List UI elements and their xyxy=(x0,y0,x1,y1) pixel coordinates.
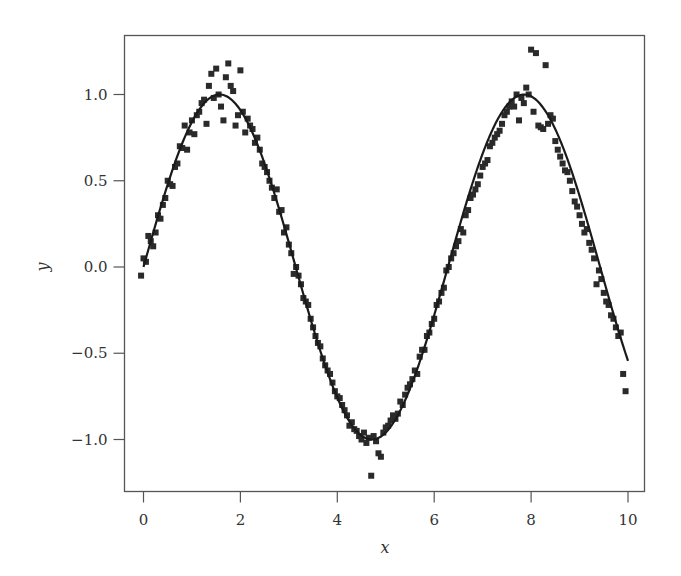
data-point xyxy=(499,121,505,127)
data-point xyxy=(475,181,481,187)
data-point xyxy=(378,454,384,460)
x-axis-label: x xyxy=(380,538,389,557)
data-point xyxy=(594,281,600,287)
data-point xyxy=(555,147,561,153)
data-point xyxy=(218,104,224,110)
data-point xyxy=(557,154,563,160)
data-point xyxy=(363,440,369,446)
data-point xyxy=(208,71,214,77)
y-tick-label: 0.5 xyxy=(84,172,108,190)
data-point xyxy=(472,186,478,192)
data-point xyxy=(206,83,212,89)
data-point xyxy=(533,50,539,56)
data-point xyxy=(523,85,529,91)
data-point xyxy=(552,138,558,144)
data-point xyxy=(577,212,583,218)
data-point xyxy=(511,104,517,110)
data-point xyxy=(560,161,566,167)
data-point xyxy=(242,129,248,135)
y-axis: −1.0−0.50.00.51.0 xyxy=(71,86,124,449)
data-point xyxy=(368,473,374,479)
y-axis-label: y xyxy=(33,262,52,273)
data-point xyxy=(574,204,580,210)
data-point xyxy=(521,100,527,106)
data-point xyxy=(228,83,234,89)
y-tick-label: 1.0 xyxy=(84,86,108,104)
data-point xyxy=(230,88,236,94)
data-point xyxy=(237,67,243,73)
data-point xyxy=(220,117,226,123)
x-axis: 0246810 xyxy=(139,492,638,529)
data-point xyxy=(579,221,585,227)
x-tick-label: 4 xyxy=(333,511,343,529)
data-point xyxy=(233,123,239,129)
data-point xyxy=(531,109,537,115)
data-point xyxy=(465,207,471,213)
data-point xyxy=(184,147,190,153)
data-point xyxy=(203,121,209,127)
data-point xyxy=(477,173,483,179)
x-tick-label: 8 xyxy=(526,511,536,529)
data-point xyxy=(170,183,176,189)
data-point xyxy=(470,192,476,198)
x-tick-label: 10 xyxy=(618,511,637,529)
data-point xyxy=(567,178,573,184)
data-point xyxy=(516,117,522,123)
y-tick-label: 0.0 xyxy=(84,258,108,276)
data-point xyxy=(545,121,551,127)
data-point xyxy=(182,123,188,129)
data-point xyxy=(145,233,151,239)
data-point xyxy=(191,131,197,137)
data-point xyxy=(138,273,144,279)
data-point xyxy=(489,140,495,146)
y-tick-label: −1.0 xyxy=(71,431,107,449)
data-point xyxy=(225,60,231,66)
x-tick-label: 0 xyxy=(139,511,149,529)
data-point xyxy=(620,371,626,377)
data-point xyxy=(586,240,592,246)
data-point xyxy=(213,66,219,72)
data-point xyxy=(569,188,575,194)
chart: 0246810 −1.0−0.50.00.51.0 x y xyxy=(0,0,681,576)
data-point xyxy=(540,126,546,132)
data-point xyxy=(484,157,490,163)
x-tick-label: 2 xyxy=(236,511,246,529)
data-point xyxy=(223,74,229,80)
data-point xyxy=(497,128,503,134)
data-point xyxy=(572,198,578,204)
x-tick-label: 6 xyxy=(429,511,439,529)
data-point xyxy=(543,62,549,68)
data-point xyxy=(564,169,570,175)
y-tick-label: −0.5 xyxy=(71,344,107,362)
data-point xyxy=(460,230,466,236)
data-point xyxy=(623,388,629,394)
data-point xyxy=(150,243,156,249)
